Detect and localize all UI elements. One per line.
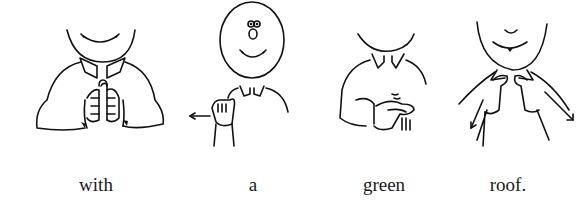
caption-a: a [249, 174, 257, 196]
sign-green-illustration [330, 0, 440, 150]
sign-panel-with [25, 0, 165, 150]
sign-roof-illustration [455, 0, 585, 150]
caption-green: green [363, 174, 405, 196]
sign-panel-green [330, 0, 440, 150]
caption-roof: roof. [490, 174, 526, 196]
sign-with-illustration [25, 0, 165, 150]
sign-panel-roof [455, 0, 585, 150]
sign-panel-a [180, 0, 300, 150]
caption-with: with [79, 174, 113, 196]
sign-a-illustration [180, 0, 300, 150]
